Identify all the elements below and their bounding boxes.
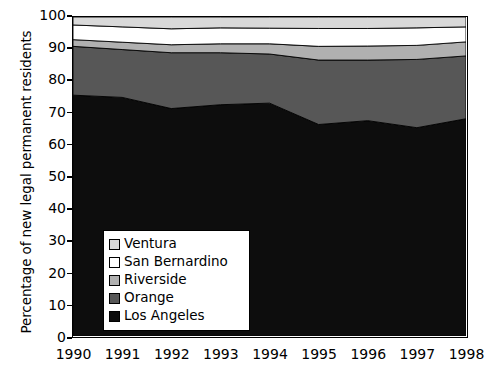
y-tick-mark-50 <box>67 176 72 178</box>
y-tick-mark-10 <box>67 305 72 307</box>
legend-item-riverside[interactable]: Riverside <box>109 271 244 289</box>
y-axis-tick-labels: 1009080706050403020100 <box>20 0 66 377</box>
chart-legend: VenturaSan BernardinoRiversideOrangeLos … <box>103 230 250 331</box>
y-tick-label-0: 0 <box>24 330 66 344</box>
y-tick-mark-70 <box>67 112 72 114</box>
legend-swatch-icon <box>109 257 120 268</box>
y-tick-mark-20 <box>67 273 72 275</box>
legend-item-label: San Bernardino <box>124 255 228 269</box>
legend-item-ventura[interactable]: Ventura <box>109 235 244 253</box>
legend-item-los-angeles[interactable]: Los Angeles <box>109 307 244 325</box>
y-tick-label-100: 100 <box>24 8 66 22</box>
y-tick-mark-40 <box>67 208 72 210</box>
legend-item-san-bernardino[interactable]: San Bernardino <box>109 253 244 271</box>
y-tick-label-40: 40 <box>24 201 66 215</box>
legend-swatch-icon <box>109 293 120 304</box>
legend-item-label: Los Angeles <box>124 309 205 323</box>
y-tick-label-70: 70 <box>24 105 66 119</box>
y-tick-mark-100 <box>67 15 72 17</box>
legend-item-label: Orange <box>124 291 174 305</box>
legend-swatch-icon <box>109 275 120 286</box>
y-tick-mark-90 <box>67 47 72 49</box>
y-tick-mark-60 <box>67 144 72 146</box>
legend-swatch-icon <box>109 311 120 322</box>
y-tick-label-60: 60 <box>24 137 66 151</box>
area-series-ventura <box>73 17 466 29</box>
y-tick-mark-30 <box>67 240 72 242</box>
x-tick-label-1998: 1998 <box>437 346 490 362</box>
legend-item-label: Riverside <box>124 273 187 287</box>
y-tick-label-50: 50 <box>24 169 66 183</box>
y-tick-mark-80 <box>67 79 72 81</box>
y-tick-label-30: 30 <box>24 233 66 247</box>
stacked-area-chart: Percentage of new legal permanent reside… <box>0 0 490 377</box>
y-tick-label-80: 80 <box>24 72 66 86</box>
y-tick-label-90: 90 <box>24 40 66 54</box>
y-tick-mark-0 <box>67 337 72 339</box>
y-tick-label-20: 20 <box>24 266 66 280</box>
legend-item-label: Ventura <box>124 237 177 251</box>
legend-swatch-icon <box>109 239 120 250</box>
y-tick-label-10: 10 <box>24 298 66 312</box>
legend-item-orange[interactable]: Orange <box>109 289 244 307</box>
